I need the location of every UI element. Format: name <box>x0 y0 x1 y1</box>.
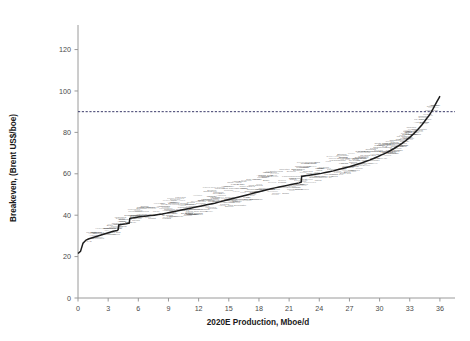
point-label: Abu Dhabi <box>235 187 247 190</box>
point-label: Libya <box>249 185 256 188</box>
point-label: Belarus <box>268 181 277 184</box>
point-label: Oil Sands <box>162 214 174 217</box>
point-label: Arctic <box>317 167 324 170</box>
y-tick-label: 20 <box>63 252 71 261</box>
point-label: Malaysia <box>154 202 164 205</box>
x-tick-label: 6 <box>136 304 140 313</box>
point-label: Kara Sea <box>175 196 186 199</box>
x-tick-label: 18 <box>255 304 263 313</box>
point-label: East Siberia <box>291 168 305 171</box>
point-label: Sakhalin <box>92 231 102 234</box>
chart-figure: 020406080100120 0369121518212427303336 K… <box>0 0 470 341</box>
point-label: Tight Oil <box>339 162 349 165</box>
x-tick-label: 0 <box>76 304 80 313</box>
point-label: Oman <box>282 192 289 195</box>
point-label: Latvia <box>315 179 322 182</box>
point-label: Kuwait <box>162 206 170 209</box>
point-label: Iran <box>246 196 251 199</box>
point-label: Lithuania <box>358 150 369 153</box>
point-label: Mongolia <box>296 184 307 187</box>
x-axis-title: 2020E Production, Mboe/d <box>207 318 309 327</box>
point-label: Armenia <box>256 174 266 177</box>
breakeven-cost-curve-chart: 020406080100120 0369121518212427303336 K… <box>0 0 470 341</box>
point-label: Croatia <box>187 201 196 204</box>
point-label: Brazil <box>211 190 218 193</box>
y-tick-label: 80 <box>63 128 71 137</box>
y-tick-label: 40 <box>63 211 71 220</box>
point-label: Georgia <box>374 149 384 152</box>
point-label: Spain <box>119 218 126 221</box>
x-tick-label: 36 <box>436 304 444 313</box>
y-axis-title: Breakeven, (Brent US$/boe) <box>9 114 18 222</box>
point-label: Vietnam <box>193 194 202 197</box>
point-label: Norway Offshore <box>137 206 156 209</box>
x-tick-label: 30 <box>376 304 384 313</box>
point-label: Ivory Coast <box>354 157 367 160</box>
point-label: Georgia <box>351 169 361 172</box>
point-label: Latvia <box>233 190 240 193</box>
x-tick-label: 12 <box>195 304 203 313</box>
point-label: Qatar <box>267 174 273 177</box>
point-label: Bitumen <box>170 201 180 204</box>
point-label: India <box>289 189 295 192</box>
y-tick-label: 100 <box>59 87 71 96</box>
point-label: China <box>331 175 338 178</box>
point-label: Serbia <box>272 193 280 196</box>
point-label: Montenegro <box>128 210 142 213</box>
x-tick-label: 21 <box>285 304 293 313</box>
x-tick-label: 9 <box>166 304 170 313</box>
point-label: Japan <box>289 177 296 180</box>
x-tick-label: 3 <box>106 304 110 313</box>
point-label: Sudan <box>355 167 363 170</box>
point-label: Finland <box>278 181 287 184</box>
point-label: Algeria <box>232 180 240 183</box>
point-label: West Siberia <box>222 187 237 190</box>
point-label: Russia <box>185 212 193 215</box>
point-label: Kazakhstan <box>378 143 392 146</box>
point-label: Deepwater <box>337 157 349 160</box>
point-label: Kuwait <box>148 217 156 220</box>
x-tick-label: 27 <box>345 304 353 313</box>
point-label: Mexico <box>329 157 338 160</box>
y-tick-label: 0 <box>67 294 71 303</box>
x-tick-label: 24 <box>315 304 323 313</box>
point-label: Ultra Deepwater <box>201 198 219 201</box>
x-tick-label: 15 <box>225 304 233 313</box>
point-label: Peru <box>240 191 246 194</box>
point-label: Norway <box>301 162 310 165</box>
point-label: Mediterranean <box>295 165 312 168</box>
point-label: Azerbaijan <box>104 227 116 230</box>
y-tick-label: 60 <box>63 169 71 178</box>
y-tick-label: 120 <box>59 45 71 54</box>
x-tick-label: 33 <box>406 304 414 313</box>
point-label: Sweden <box>194 212 204 215</box>
point-label: Oman <box>348 152 355 155</box>
point-label: Slovenia <box>208 207 218 210</box>
point-label: UAE <box>87 240 92 243</box>
point-label: Congo <box>299 171 307 174</box>
